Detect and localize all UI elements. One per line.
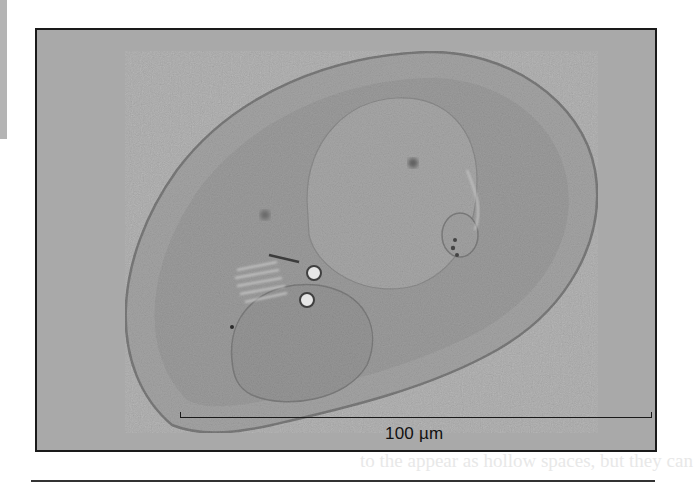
ciliate-cell-illustration bbox=[37, 30, 655, 450]
horizontal-rule bbox=[31, 480, 655, 482]
micrograph-figure: 100 µm bbox=[35, 28, 657, 452]
scale-bar-label: 100 µm bbox=[385, 424, 443, 444]
scale-bar bbox=[180, 412, 652, 418]
page-side-tab bbox=[0, 0, 7, 139]
bleed-through-text: to the appear as hollow spaces, but they… bbox=[360, 450, 693, 472]
